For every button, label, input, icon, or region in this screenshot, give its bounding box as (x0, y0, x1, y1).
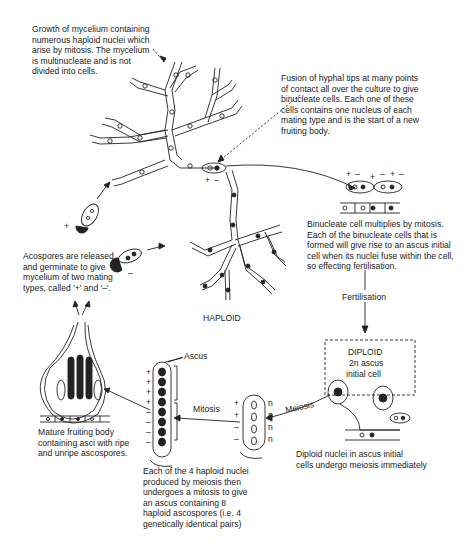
annotation-mature-fruiting-body: Mature fruiting body containing asci wit… (38, 427, 148, 459)
ascus8-minus-2: – (146, 417, 151, 427)
ascus8-plus-4: + (146, 397, 151, 407)
annotation-hyphal-fusion: Fusion of hyphal tips at many points of … (281, 73, 461, 137)
ascus-four-nuclei (240, 395, 265, 458)
ascus4-n-4: n (268, 434, 273, 444)
label-initial-cell: initial cell (346, 369, 381, 379)
ascus4-n-2: n (268, 410, 273, 420)
annotation-mitosis-ascus: Each of the 4 haploid nuclei produced by… (143, 466, 273, 530)
binucleate-minus-2: – (380, 169, 385, 179)
ascus-eight-spores (150, 358, 182, 466)
binucleate-plus-1: + (346, 169, 351, 179)
label-haploid: HAPLOID (203, 313, 241, 323)
ascus4-minus-1: – (234, 422, 239, 432)
label-ascus: Ascus (184, 351, 207, 361)
mating-type-plus: + (64, 221, 69, 231)
binucleate-plus-3: + (390, 169, 395, 179)
annotation-diploid-meiosis: Diploid nuclei in ascus initial cells un… (296, 449, 446, 470)
annotation-mycelium-growth: Growth of mycelium containing numerous h… (32, 24, 192, 77)
mating-type-minus: – (128, 268, 133, 278)
annotation-ascospores-released: Acospores are released and germinate to … (23, 251, 143, 293)
label-fertilisation: Fertilisation (342, 292, 386, 302)
annotation-binucleate-mitosis: Binucleate cell multiplies by mitosis. E… (307, 219, 464, 272)
label-2n-ascus: 2n ascus (349, 358, 383, 368)
fusion-minus: – (214, 175, 219, 185)
binucleate-minus-3: – (399, 169, 404, 179)
label-mitosis: Mitosis (193, 404, 220, 414)
ascus8-minus-3: – (146, 427, 151, 437)
ascus8-minus-1: – (146, 407, 151, 417)
ascus8-plus-1: + (146, 367, 151, 377)
ascus4-minus-2: – (234, 434, 239, 444)
ascus8-minus-4: – (146, 437, 151, 447)
binucleate-minus-1: – (355, 169, 360, 179)
binucleate-plus-2: + (370, 172, 375, 182)
ascus4-n-1: n (268, 398, 273, 408)
fruiting-body (40, 301, 110, 423)
ascus8-plus-2: + (146, 377, 151, 387)
fusion-plus: + (205, 175, 210, 185)
ascus8-plus-3: + (146, 387, 151, 397)
label-diploid: DIPLOID (348, 347, 382, 357)
ascus-initial-cells (328, 380, 410, 440)
ascus4-plus-1: + (234, 398, 239, 408)
ascus4-n-3: n (268, 422, 273, 432)
haploid-mycelium-filled-nuclei (190, 170, 286, 300)
ascus4-plus-2: + (234, 410, 239, 420)
